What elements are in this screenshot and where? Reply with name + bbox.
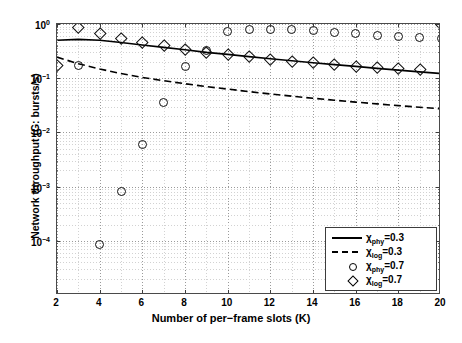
- y-tick-minor: [56, 170, 58, 171]
- y-tick-minor: [56, 269, 58, 270]
- y-tick-minor: [56, 215, 58, 216]
- y-tick: [56, 187, 60, 188]
- y-tick-minor: [56, 243, 58, 244]
- y-tick-minor: [56, 107, 58, 108]
- y-tick-minor: [56, 87, 58, 88]
- marker-chi-phy-07: [373, 31, 382, 40]
- y-tick-minor: [56, 161, 58, 162]
- marker-chi-phy-07: [245, 25, 254, 34]
- legend-label: χlog=0.7: [366, 274, 402, 287]
- y-tick-minor: [56, 257, 58, 258]
- y-tick-minor: [438, 249, 440, 250]
- y-tick-minor: [438, 100, 440, 101]
- marker-chi-phy-07: [138, 140, 147, 149]
- y-tick-minor: [438, 90, 440, 91]
- legend-circle-icon: [328, 259, 366, 273]
- plot-area: χphy=0.3χlog=0.3χphy=0.7χlog=0.7: [56, 23, 440, 294]
- marker-chi-phy-07: [330, 28, 339, 37]
- y-tick-minor: [56, 84, 58, 85]
- x-tick: [270, 23, 271, 27]
- y-tick-minor: [438, 279, 440, 280]
- y-tick-minor: [438, 107, 440, 108]
- y-tick: [436, 24, 440, 25]
- y-axis-title: Network throughput (G: bursts/s): [29, 26, 41, 286]
- x-tick-label: 6: [121, 297, 161, 309]
- y-tick-minor: [438, 52, 440, 53]
- y-tick-minor: [438, 170, 440, 171]
- y-tick-minor: [56, 81, 58, 82]
- y-tick-minor: [438, 253, 440, 254]
- y-tick-minor: [56, 135, 58, 136]
- legend-solid-line-icon-glyph: [332, 237, 362, 239]
- legend-label: χphy=0.7: [366, 260, 404, 273]
- y-tick-label: 10−2: [0, 126, 50, 139]
- y-tick-minor: [438, 46, 440, 47]
- y-tick-minor: [438, 62, 440, 63]
- y-tick-minor: [438, 36, 440, 37]
- legend-item: χlog=0.3: [328, 245, 434, 259]
- y-tick-minor: [56, 52, 58, 53]
- legend-dashed-line-icon: [328, 245, 366, 259]
- y-tick-minor: [56, 279, 58, 280]
- y-tick-minor: [438, 40, 440, 41]
- y-tick-minor: [438, 138, 440, 139]
- y-tick-minor: [438, 192, 440, 193]
- y-tick-minor: [438, 141, 440, 142]
- y-tick-minor: [438, 243, 440, 244]
- y-tick-minor: [56, 195, 58, 196]
- y-tick-minor: [438, 262, 440, 263]
- y-tick-minor: [56, 29, 58, 30]
- y-tick-minor: [56, 27, 58, 28]
- y-tick-minor: [438, 29, 440, 30]
- y-tick: [56, 241, 60, 242]
- x-tick: [57, 290, 58, 294]
- y-tick-minor: [56, 253, 58, 254]
- y-tick-minor: [56, 149, 58, 150]
- y-tick-minor: [438, 144, 440, 145]
- y-tick-minor: [438, 215, 440, 216]
- x-tick-label: 2: [36, 297, 76, 309]
- y-tick-minor: [438, 95, 440, 96]
- legend-circle-icon-glyph: [349, 263, 357, 271]
- y-tick-minor: [438, 195, 440, 196]
- y-tick-minor: [56, 262, 58, 263]
- x-tick: [142, 290, 143, 294]
- y-tick-minor: [56, 116, 58, 117]
- legend-item: χphy=0.3: [328, 231, 434, 245]
- y-tick-minor: [438, 32, 440, 33]
- x-tick-label: 14: [292, 297, 332, 309]
- y-tick-minor: [56, 36, 58, 37]
- y-tick: [56, 132, 60, 133]
- x-tick: [228, 290, 229, 294]
- x-tick: [142, 23, 143, 27]
- x-tick: [100, 23, 101, 27]
- y-tick-minor: [438, 87, 440, 88]
- y-tick-minor: [438, 246, 440, 247]
- y-tick-minor: [56, 189, 58, 190]
- y-tick-minor: [56, 100, 58, 101]
- y-tick-label: 100: [0, 18, 50, 31]
- x-tick: [313, 290, 314, 294]
- y-tick-minor: [438, 116, 440, 117]
- x-tick: [100, 290, 101, 294]
- y-tick-label: 10−1: [0, 72, 50, 85]
- y-tick-minor: [56, 154, 58, 155]
- y-tick-minor: [56, 138, 58, 139]
- marker-chi-phy-07: [159, 98, 168, 107]
- y-tick-minor: [438, 208, 440, 209]
- marker-chi-phy-07: [74, 61, 83, 70]
- x-tick: [228, 23, 229, 27]
- y-tick: [436, 187, 440, 188]
- y-tick-minor: [56, 90, 58, 91]
- y-tick-minor: [438, 199, 440, 200]
- y-tick-minor: [56, 203, 58, 204]
- chart-figure: χphy=0.3χlog=0.3χphy=0.7χlog=0.7 2468101…: [0, 0, 462, 343]
- y-tick: [436, 132, 440, 133]
- y-tick-minor: [56, 246, 58, 247]
- y-tick-minor: [56, 192, 58, 193]
- y-tick-minor: [56, 199, 58, 200]
- chart-legend: χphy=0.3χlog=0.3χphy=0.7χlog=0.7: [325, 227, 437, 291]
- x-tick-label: 4: [79, 297, 119, 309]
- x-tick-label: 12: [249, 297, 289, 309]
- y-tick: [56, 24, 60, 25]
